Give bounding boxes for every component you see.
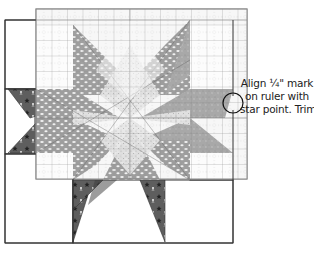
callout-line-3: star point. Trim. — [240, 103, 314, 116]
ruler-grid — [36, 9, 247, 179]
quilt-diagram — [0, 0, 314, 258]
callout-text: Align ¼" mark on ruler with star point. … — [240, 77, 314, 116]
callout-line-2: on ruler with — [240, 90, 314, 103]
callout-line-1: Align ¼" mark — [240, 77, 314, 90]
